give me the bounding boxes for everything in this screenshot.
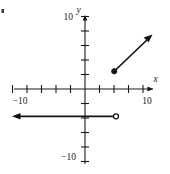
series-increasing-ray xyxy=(112,35,153,75)
y-axis-label: y xyxy=(75,5,81,15)
graph-figure: x y −10 10 10 −10 xyxy=(0,0,170,174)
x-tick-label-negative-ten: −10 xyxy=(13,96,28,106)
y-axis-arrow-icon xyxy=(83,15,88,21)
coordinate-plane-svg: x y −10 10 10 −10 xyxy=(0,0,170,174)
x-axis-arrow-icon xyxy=(148,87,154,92)
open-endpoint-circle xyxy=(114,114,119,119)
y-tick-label-positive-ten: 10 xyxy=(64,12,74,22)
series-constant-ray xyxy=(12,113,119,119)
constant-ray-arrow-icon xyxy=(12,113,21,119)
increasing-ray-segment xyxy=(115,38,150,71)
y-tick-label-negative-ten: −10 xyxy=(61,152,76,162)
x-axis-label: x xyxy=(152,74,158,84)
x-axis xyxy=(13,85,154,93)
scan-speck xyxy=(2,9,5,13)
x-tick-label-positive-ten: 10 xyxy=(142,96,152,106)
closed-endpoint-dot xyxy=(112,69,117,74)
